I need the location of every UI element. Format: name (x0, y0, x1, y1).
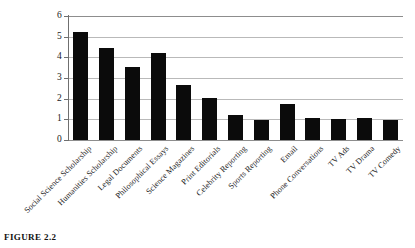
bar (383, 120, 398, 140)
x-axis-tick-label: Phone Conversations (177, 144, 325, 248)
gridline-2 (68, 99, 403, 100)
y-axis-tick-label: 6 (48, 10, 62, 20)
y-axis-tick-label: 4 (48, 51, 62, 61)
y-axis-tick-label: 5 (48, 31, 62, 41)
y-axis-tick-label: 2 (48, 93, 62, 103)
y-axis-tick-label: 3 (48, 72, 62, 82)
bar (176, 85, 191, 140)
y-tick-6 (64, 16, 69, 17)
x-axis-tick-label: Sports Reporting (126, 144, 274, 248)
x-axis-tick-label: TV Comedy (255, 144, 403, 248)
bar (305, 118, 320, 140)
x-axis-tick-label: Print Editorials (74, 144, 222, 248)
bar (331, 119, 346, 140)
bar (357, 118, 372, 140)
gridline-5 (68, 37, 403, 38)
y-axis-tick-label: 1 (48, 113, 62, 123)
y-tick-0 (64, 140, 69, 141)
figure-caption: FIGURE 2.2 (4, 232, 57, 242)
figure-container: Social Science ScholarshipHumanities Sch… (0, 0, 415, 248)
bar (125, 67, 140, 140)
x-axis-tick-label: TV Ads (203, 144, 351, 248)
chart-plot-area (68, 16, 403, 140)
bar (202, 98, 217, 140)
y-tick-3 (64, 78, 69, 79)
bar (151, 53, 166, 140)
y-axis-tick-label: 0 (48, 134, 62, 144)
y-tick-4 (64, 57, 69, 58)
bar (228, 115, 243, 140)
y-tick-2 (64, 99, 69, 100)
bar (99, 48, 114, 140)
x-axis-tick-label: Email (152, 144, 300, 248)
bar (254, 120, 269, 140)
x-axis-baseline (68, 140, 403, 141)
y-tick-1 (64, 119, 69, 120)
bar (280, 104, 295, 140)
gridline-4 (68, 57, 403, 58)
x-axis-tick-label: Celebrity Reporting (100, 144, 248, 248)
gridline-3 (68, 78, 403, 79)
bar (73, 32, 88, 141)
y-tick-5 (64, 37, 69, 38)
gridline-6 (68, 16, 403, 17)
x-axis-tick-label: TV Drama (229, 144, 377, 248)
x-axis-tick-label: Science Magazines (49, 144, 197, 248)
